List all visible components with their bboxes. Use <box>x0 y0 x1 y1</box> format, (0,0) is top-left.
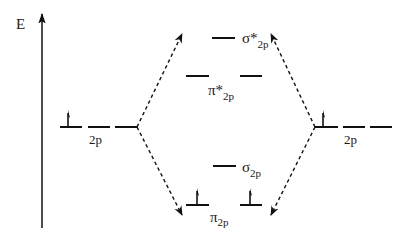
spin-up-arrow-icon <box>250 188 252 204</box>
spin-up-arrow-icon <box>197 188 199 204</box>
mo-diagram: E 2p 2p σ*2p π*2p <box>0 0 409 237</box>
sigma-symbol: σ <box>242 159 250 175</box>
sigma-subscript: 2p <box>250 167 262 179</box>
energy-axis: E <box>16 14 42 228</box>
pi-star-subscript: 2p <box>223 90 235 102</box>
energy-axis-label: E <box>16 16 25 32</box>
pi-star-symbol: π* <box>208 82 223 98</box>
sigma-2p-level: σ2p <box>213 159 262 179</box>
correlation-lines <box>137 34 315 215</box>
left-to-antibonding-arrow <box>137 34 182 127</box>
sigma-star-symbol: σ* <box>242 30 258 46</box>
right-to-bonding-arrow <box>271 127 315 215</box>
pi-2p-level: π2p <box>186 188 262 228</box>
right-2p-label: 2p <box>344 132 357 147</box>
sigma-2p-label: σ2p <box>242 159 262 179</box>
sigma-star-2p-label: σ*2p <box>242 30 269 50</box>
pi-2p-label: π2p <box>210 209 229 228</box>
sigma-star-subscript: 2p <box>258 38 270 50</box>
right-atom-2p: 2p <box>315 110 392 147</box>
left-to-bonding-arrow <box>137 127 182 215</box>
spin-up-arrow-icon <box>323 110 325 126</box>
spin-up-arrow-icon <box>68 110 70 126</box>
pi-star-2p-level: π*2p <box>186 76 262 102</box>
sigma-star-2p-level: σ*2p <box>212 30 269 50</box>
left-2p-label: 2p <box>89 132 102 147</box>
right-to-antibonding-arrow <box>271 34 315 127</box>
pi-subscript: 2p <box>218 216 230 228</box>
pi-star-2p-label: π*2p <box>208 82 235 102</box>
left-atom-2p: 2p <box>60 110 137 147</box>
